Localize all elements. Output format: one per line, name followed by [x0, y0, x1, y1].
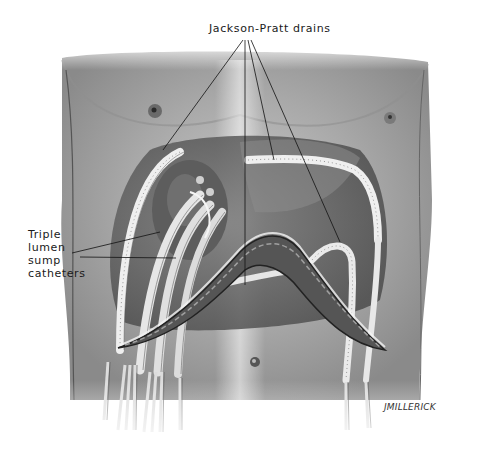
label-line: sump [28, 254, 98, 267]
artist-signature: JMILLERICK [384, 402, 436, 412]
label-line: lumen [28, 241, 98, 254]
label-line: catheters [28, 267, 98, 280]
triple-lumen-label: Triple lumen sump catheters [28, 228, 98, 280]
drain-illustration: Jackson-Pratt drains Triple lumen sump c… [0, 0, 480, 458]
label-line: Triple [28, 228, 98, 241]
jackson-pratt-label: Jackson-Pratt drains [209, 22, 331, 35]
